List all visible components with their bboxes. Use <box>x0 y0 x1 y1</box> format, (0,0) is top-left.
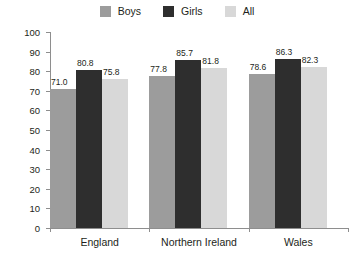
legend-swatch-girls <box>163 6 174 17</box>
legend-item-girls[interactable]: Girls <box>163 6 203 17</box>
bar-value-label: 81.8 <box>202 57 219 66</box>
bar-value-label: 75.8 <box>103 68 120 77</box>
bar-value-label: 82.3 <box>302 56 319 65</box>
bar-boys-northern-ireland[interactable] <box>149 76 175 228</box>
x-axis-category-label: Northern Ireland <box>161 237 237 248</box>
y-axis-tick <box>46 52 50 53</box>
plot-area: 0102030405060708090100 EnglandNorthern I… <box>50 32 348 228</box>
bar-all-northern-ireland[interactable] <box>201 68 227 228</box>
legend-item-boys[interactable]: Boys <box>100 6 141 17</box>
legend-label-all: All <box>243 6 255 17</box>
bar-value-label: 78.6 <box>250 63 267 72</box>
x-axis-category-label: England <box>80 237 119 248</box>
x-axis-category-label: Wales <box>284 237 313 248</box>
y-axis-tick-label: 100 <box>0 28 40 38</box>
bar-chart: BoysGirlsAll 0102030405060708090100 Engl… <box>0 0 354 259</box>
x-axis-tick <box>149 228 150 232</box>
x-axis-line <box>50 228 348 229</box>
y-axis-tick-label: 30 <box>0 165 40 175</box>
bar-girls-northern-ireland[interactable] <box>175 60 201 228</box>
bar-value-label: 86.3 <box>276 48 293 57</box>
bar-girls-england[interactable] <box>76 70 102 228</box>
y-axis-tick-label: 0 <box>0 224 40 234</box>
y-axis-tick-label: 80 <box>0 67 40 77</box>
y-axis-tick-label: 50 <box>0 126 40 136</box>
bar-all-england[interactable] <box>102 79 128 228</box>
chart-legend: BoysGirlsAll <box>0 2 354 20</box>
bar-boys-wales[interactable] <box>249 74 275 228</box>
bar-girls-wales[interactable] <box>275 59 301 228</box>
bar-value-label: 71.0 <box>51 78 68 87</box>
x-axis-tick <box>249 228 250 232</box>
y-axis-tick-label: 10 <box>0 204 40 214</box>
y-axis-tick-label: 20 <box>0 185 40 195</box>
y-axis-tick <box>46 32 50 33</box>
x-axis-tick <box>348 228 349 232</box>
legend-swatch-boys <box>100 6 111 17</box>
y-axis-tick-label: 90 <box>0 48 40 58</box>
bar-value-label: 85.7 <box>176 49 193 58</box>
bar-value-label: 77.8 <box>150 65 167 74</box>
legend-label-girls: Girls <box>181 6 203 17</box>
y-axis-tick-label: 60 <box>0 106 40 116</box>
y-axis-tick-label: 40 <box>0 146 40 156</box>
legend-swatch-all <box>225 6 236 17</box>
bar-all-wales[interactable] <box>301 67 327 228</box>
x-axis-tick <box>50 228 51 232</box>
legend-item-all[interactable]: All <box>225 6 255 17</box>
bar-boys-england[interactable] <box>50 89 76 228</box>
y-axis-tick-label: 70 <box>0 87 40 97</box>
legend-label-boys: Boys <box>118 6 141 17</box>
bar-value-label: 80.8 <box>77 59 94 68</box>
y-axis-tick <box>46 71 50 72</box>
